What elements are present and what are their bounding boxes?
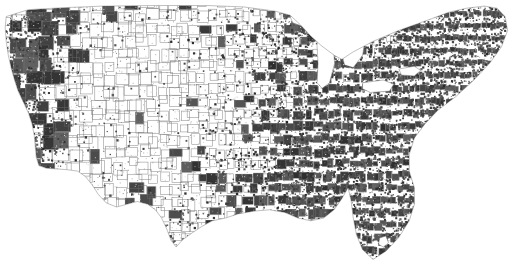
us-county-choropleth-map: County-level binary/graded shading of th… [0,0,518,276]
map-canvas [0,0,518,276]
